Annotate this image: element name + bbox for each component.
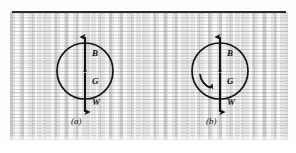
figure-b [192,37,248,112]
figure-b-label-W: W [227,97,235,107]
scanned-page: B G W B G W (a) (b) [0,0,296,153]
figure-a-label-B: B [92,48,98,58]
figure-b-rotation-arrow [200,74,211,88]
figure-group: B G W B G W (a) (b) [0,0,296,153]
figure-vector-layer [0,0,296,153]
figure-a [57,37,113,112]
figure-b-label-G: G [227,76,234,86]
figure-a-label-W: W [92,97,100,107]
figure-a-caption: (a) [71,116,82,126]
figure-a-center-of-gravity-point [84,70,87,73]
figure-b-caption: (b) [206,116,217,126]
figure-a-label-G: G [92,76,99,86]
figure-b-label-B: B [227,48,233,58]
page-bottom-fade [0,134,296,153]
figure-b-center-of-gravity-point [219,70,222,73]
